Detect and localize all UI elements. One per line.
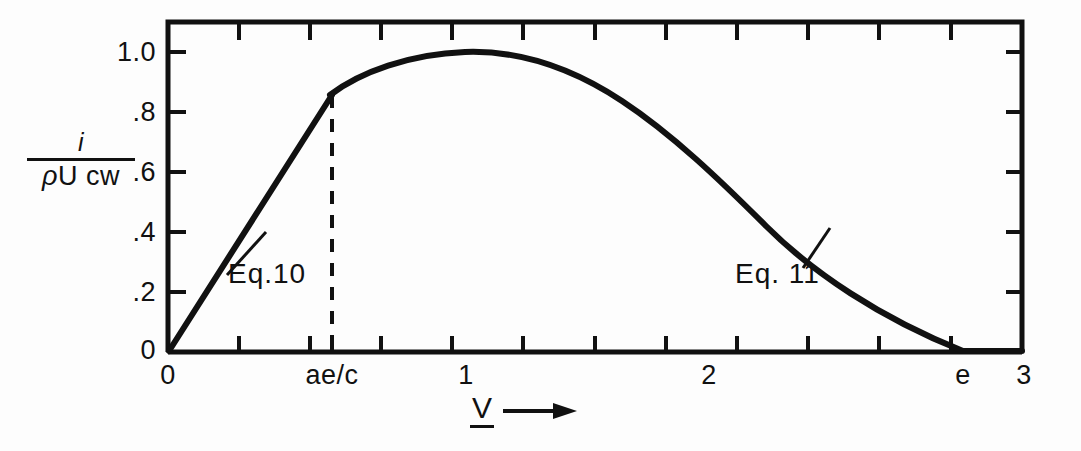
y-tick-label-1-0: 1.0 (86, 37, 156, 68)
y-tick-label-0-4: .4 (86, 217, 156, 248)
x-axis-top-ticks (239, 22, 951, 40)
series-eq10-line (169, 95, 332, 351)
y-tick-label-0-6: .6 (86, 157, 156, 188)
x-tick-label-2: 2 (679, 360, 739, 391)
annotation-eq11: Eq. 11 (735, 258, 820, 290)
y-tick-label-0-8: .8 (86, 97, 156, 128)
x-axis-title: V (470, 393, 577, 428)
x-tick-label-e: e (933, 360, 993, 391)
y-axis-ticks (168, 52, 186, 352)
rho-symbol: ρ (42, 161, 58, 191)
figure-container: i ρU cw 1.0 .8 .6 .4 .2 0 0 ae/c 1 2 e 3… (0, 0, 1081, 451)
arrow-right-icon (503, 400, 577, 422)
annotation-eq10: Eq.10 (228, 258, 306, 290)
axis-frame (168, 22, 1022, 352)
x-axis-symbol-v: V (470, 393, 494, 428)
x-tick-label-0: 0 (138, 360, 198, 391)
x-tick-label-1: 1 (436, 360, 496, 391)
y-tick-label-0-2: .2 (86, 277, 156, 308)
x-tick-label-3: 3 (994, 360, 1054, 391)
series-eq11-curve (330, 52, 1022, 351)
x-tick-label-aec: ae/c (272, 360, 392, 391)
y-axis-numerator: i (22, 130, 140, 157)
